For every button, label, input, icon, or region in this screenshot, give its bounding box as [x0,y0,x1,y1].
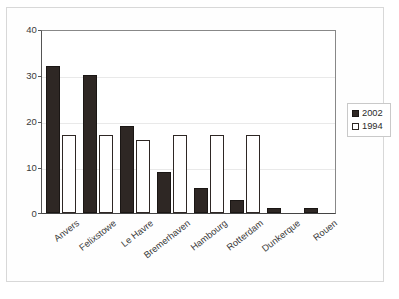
bar-le-havre-1994 [136,140,150,213]
bar-bremerhaven-1994 [173,135,187,213]
plot-area [41,30,336,214]
legend-label-1994: 1994 [362,121,383,132]
legend-swatch-2002-icon [352,110,359,117]
bar-anvers-1994 [62,135,76,213]
legend-swatch-1994-icon [352,123,359,130]
x-axis: AnversFelixstoweLe HavreBremerhavenHambo… [41,216,336,278]
legend-label-2002: 2002 [362,108,383,119]
bar-anvers-2002 [46,66,60,213]
y-tick-label-40: 40 [7,24,37,35]
y-tick-label-0: 0 [7,208,37,219]
chart-figure: 40 30 20 10 0 AnversFelixstoweLe HavreBr… [0,0,399,299]
y-tick-label-30: 30 [7,70,37,81]
legend-item-1994: 1994 [352,120,387,133]
y-tick-label-20: 20 [7,116,37,127]
chart-legend: 2002 1994 [347,103,391,137]
bar-rotterdam-2002 [230,200,244,213]
bar-hambourg-1994 [210,135,224,213]
bar-dunkerque-2002 [267,208,281,213]
y-tick-label-10: 10 [7,162,37,173]
bar-felixstowe-1994 [99,135,113,213]
bar-bremerhaven-2002 [157,172,171,213]
legend-item-2002: 2002 [352,107,387,120]
bar-hambourg-2002 [194,188,208,213]
bar-rotterdam-1994 [246,135,260,213]
bar-le-havre-2002 [120,126,134,213]
bar-rouen-2002 [304,208,318,213]
y-axis: 40 30 20 10 0 [4,30,37,214]
bar-felixstowe-2002 [83,75,97,213]
